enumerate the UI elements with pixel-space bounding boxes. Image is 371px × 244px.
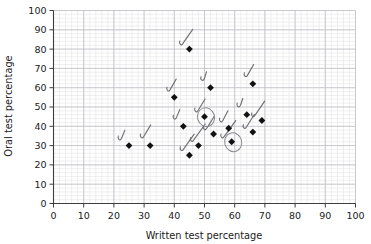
y-tick-label: 30 xyxy=(34,140,46,151)
y-tick-label: 50 xyxy=(34,101,46,112)
y-axis-title: Oral test percentage xyxy=(3,55,14,156)
y-tick-label: 10 xyxy=(34,179,46,190)
x-tick-label: 20 xyxy=(108,210,120,221)
x-tick-label: 100 xyxy=(346,210,364,221)
x-tick-label: 60 xyxy=(229,210,241,221)
scatter-chart: 0102030405060708090100 01020304050607080… xyxy=(0,0,371,244)
y-tick-label: 40 xyxy=(34,121,46,132)
y-tick-label: 0 xyxy=(40,198,46,209)
x-tick-label: 50 xyxy=(198,210,210,221)
x-tick-label: 80 xyxy=(289,210,301,221)
x-axis-title: Written test percentage xyxy=(146,230,263,241)
x-tick-label: 30 xyxy=(138,210,150,221)
y-tick-label: 100 xyxy=(28,5,46,16)
x-tick-label: 70 xyxy=(259,210,271,221)
y-tick-label: 70 xyxy=(34,63,46,74)
y-tick-label: 60 xyxy=(34,82,46,93)
x-tick-label: 90 xyxy=(319,210,331,221)
x-tick-label: 40 xyxy=(168,210,180,221)
x-tick-label: 10 xyxy=(78,210,90,221)
y-tick-label: 90 xyxy=(34,24,46,35)
chart-background xyxy=(0,0,371,244)
x-tick-label: 0 xyxy=(50,210,56,221)
y-tick-label: 80 xyxy=(34,44,46,55)
chart-canvas: 0102030405060708090100 01020304050607080… xyxy=(0,0,371,244)
y-tick-label: 20 xyxy=(34,159,46,170)
